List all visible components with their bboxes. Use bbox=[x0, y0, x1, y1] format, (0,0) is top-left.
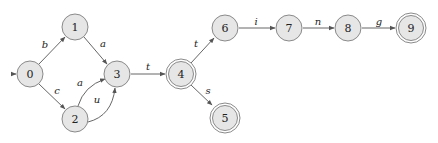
edge-label-t: t bbox=[146, 61, 151, 72]
svg-text:4: 4 bbox=[178, 68, 185, 81]
svg-text:6: 6 bbox=[222, 22, 229, 35]
state-0: 0 bbox=[17, 61, 43, 87]
svg-text:5: 5 bbox=[222, 112, 229, 125]
edge-label-b: b bbox=[42, 39, 48, 50]
state-1: 1 bbox=[62, 14, 88, 40]
edge-label-a2: a bbox=[77, 77, 83, 88]
edge-0-2 bbox=[39, 84, 65, 109]
automaton-diagram: b c a a u t t s i n g 0 1 2 3 4 5 6 7 bbox=[0, 0, 438, 143]
edge-2-3-u bbox=[88, 88, 115, 122]
state-6: 6 bbox=[212, 15, 238, 41]
state-7: 7 bbox=[276, 15, 302, 41]
edge-label-u: u bbox=[94, 94, 100, 105]
edge-label-t2: t bbox=[194, 38, 199, 49]
svg-text:2: 2 bbox=[72, 113, 79, 126]
state-3: 3 bbox=[104, 61, 130, 87]
edge-label-s: s bbox=[205, 85, 210, 96]
svg-text:7: 7 bbox=[286, 22, 293, 35]
state-5-accepting: 5 bbox=[210, 103, 240, 133]
edge-label-n: n bbox=[315, 16, 321, 27]
edge-label-a: a bbox=[100, 38, 106, 49]
edge-label-c: c bbox=[54, 85, 60, 96]
state-8: 8 bbox=[335, 15, 361, 41]
edge-label-g: g bbox=[376, 16, 382, 27]
state-9-accepting: 9 bbox=[396, 13, 426, 43]
svg-text:8: 8 bbox=[345, 22, 352, 35]
svg-text:9: 9 bbox=[408, 22, 415, 35]
edge-label-i: i bbox=[254, 16, 257, 27]
svg-text:0: 0 bbox=[27, 68, 34, 81]
svg-text:3: 3 bbox=[114, 68, 121, 81]
svg-text:1: 1 bbox=[72, 21, 79, 34]
state-2: 2 bbox=[62, 106, 88, 132]
state-4-accepting: 4 bbox=[166, 59, 196, 89]
